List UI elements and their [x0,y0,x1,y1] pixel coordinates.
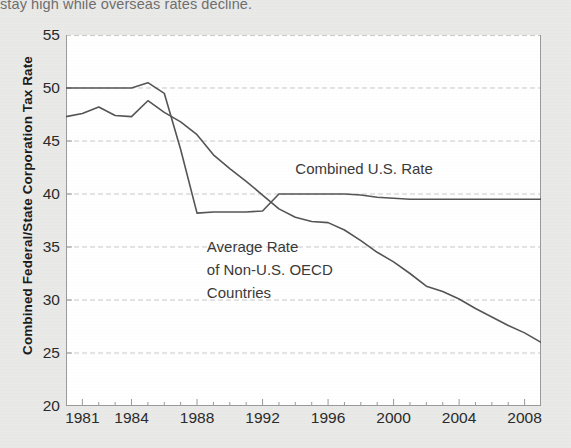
y-axis-tick-label: 55 [26,26,60,44]
annotation-oecd-line-2: of Non-U.S. OECD [207,258,333,281]
chart-svg [66,35,541,406]
x-axis-tick-label: 1981 [65,409,99,427]
y-axis-tick-label: 30 [26,291,60,309]
annotation-oecd-line-3: Countries [207,281,333,304]
annotation-us-rate: Combined U.S. Rate [295,157,433,180]
y-axis-tick-label: 20 [26,397,60,415]
x-axis-tick-label: 2000 [376,409,410,427]
y-axis-tick-label: 50 [26,79,60,97]
x-axis-tick-label: 1984 [114,409,148,427]
y-axis-tick-label: 25 [26,344,60,362]
x-axis-tick-label: 2004 [442,409,476,427]
plot-area [66,35,541,406]
y-axis-tick-group: 5550454035302520 [24,0,60,448]
x-axis-tick-label: 1988 [180,409,214,427]
y-axis-tick-label: 40 [26,185,60,203]
annotation-oecd-rate: Average Rate of Non-U.S. OECD Countries [207,235,333,305]
chart-figure: stay high while overseas rates decline. … [0,0,571,448]
x-axis-tick-label: 1996 [311,409,345,427]
y-axis-tick-label: 45 [26,132,60,150]
annotation-oecd-line-1: Average Rate [207,235,333,258]
caption-tail: stay high while overseas rates decline. [0,0,571,12]
x-axis-tick-label: 2008 [507,409,541,427]
x-axis-tick-label: 1992 [245,409,279,427]
y-axis-tick-label: 35 [26,238,60,256]
